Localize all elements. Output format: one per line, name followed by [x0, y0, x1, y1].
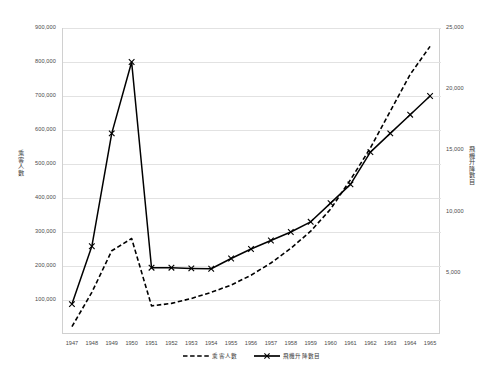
legend-label: 飛機升降數目 [283, 352, 321, 360]
legend-swatch-dashed [183, 352, 209, 360]
right-axis-title: 飛機升降數目 [468, 146, 474, 186]
left-axis-tick-label: 700,000 [10, 92, 56, 98]
right-axis-tick-label: 25,000 [446, 24, 492, 30]
gridline [63, 198, 441, 199]
legend-label: 乘客人數 [212, 352, 237, 360]
left-axis-title: 乘客人數 [17, 150, 23, 176]
left-axis-tick-label: 300,000 [10, 228, 56, 234]
gridline [63, 130, 441, 131]
gridline [63, 62, 441, 63]
left-axis-tick-label: 400,000 [10, 194, 56, 200]
gridline [63, 96, 441, 97]
gridline [63, 300, 441, 301]
gridline [63, 164, 441, 165]
legend-item[interactable]: 乘客人數 [183, 352, 237, 360]
right-axis-tick-label: 20,000 [446, 85, 492, 91]
x-axis-tick-label: 1965 [417, 340, 443, 346]
left-axis-tick-label: 100,000 [10, 296, 56, 302]
gridline [63, 266, 441, 267]
right-axis-tick-label: 5,000 [446, 269, 492, 275]
left-axis-tick-label: 600,000 [10, 126, 56, 132]
right-axis-tick-label: 10,000 [446, 208, 492, 214]
chart-container: 100,000200,000300,000400,000500,000600,0… [0, 0, 504, 375]
legend-swatch-solid [254, 352, 280, 360]
gridline [63, 232, 441, 233]
left-axis-tick-label: 200,000 [10, 262, 56, 268]
legend-item[interactable]: 飛機升降數目 [254, 352, 321, 360]
plot-area [62, 28, 440, 334]
left-axis-tick-label: 800,000 [10, 58, 56, 64]
left-axis-tick-label: 900,000 [10, 24, 56, 30]
chart-legend: 乘客人數飛機升降數目 [0, 352, 504, 360]
gridline [63, 28, 441, 29]
